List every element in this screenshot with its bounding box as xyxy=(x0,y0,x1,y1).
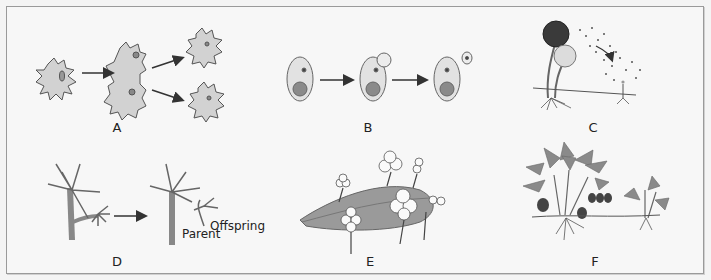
panel-label-c: C xyxy=(588,120,597,135)
panel-b-yeast-budding xyxy=(287,52,472,101)
annotation-offspring: Offspring xyxy=(210,219,265,233)
asexual-reproduction-illustrations xyxy=(0,0,711,280)
panel-a-amoeba-fission xyxy=(36,28,224,122)
panel-label-a: A xyxy=(113,120,122,135)
panel-label-d: D xyxy=(112,254,122,269)
panel-f-runner-plant xyxy=(523,142,669,240)
panel-label-f: F xyxy=(591,254,598,269)
panel-e-leaf-plantlets xyxy=(300,151,445,254)
panel-c-spore-formation xyxy=(533,21,641,110)
panel-label-e: E xyxy=(366,254,374,269)
panel-label-b: B xyxy=(364,120,373,135)
